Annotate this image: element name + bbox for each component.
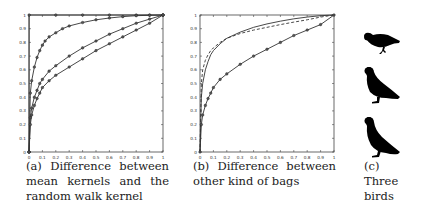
chart-b: 00.10.20.30.40.50.60.70.80.9100.10.20.30… [175,0,345,160]
chart-a-marker [36,56,39,59]
chart-a-marker [48,70,51,73]
caption-word: and [119,174,141,189]
chart-b-ytick-label: 0.9 [190,26,197,31]
chart-b-marker [209,92,212,95]
chart-b-ytick-label: 0.5 [190,81,197,86]
chart-a-ytick-label: 1 [23,13,26,18]
chart-a-marker [44,40,47,43]
caption-word: kernels [67,174,110,189]
chart-a-ytick-label: 0.9 [19,26,26,31]
chart-a-marker [68,25,71,28]
chart-a-marker [148,22,151,25]
chart-a-marker [81,47,84,50]
chart-b-frame [200,15,334,152]
chart-a-marker [68,55,71,58]
chart-a-marker [148,18,151,21]
caption-word: (a) [26,159,42,174]
chart-b-ytick-label: 0 [194,150,197,155]
chart-a-ytick-label: 0.1 [19,136,26,141]
chart-a-marker [55,14,58,17]
caption-a-line-3: random walk kernel [26,189,169,204]
chart-b-ytick-label: 0.8 [190,40,197,45]
chart-a-ytick-label: 0.8 [19,40,26,45]
chart-a-marker [148,14,151,17]
chart-a-marker [108,14,111,17]
chart-a-marker [108,42,111,45]
chart-a-ytick-label: 0 [23,150,26,155]
bird-silhouette-2 [365,67,401,104]
chart-a-marker [38,92,41,95]
chart-a-marker [95,18,98,21]
chart-a-marker [95,49,98,52]
chart-a-plot: 00.10.20.30.40.50.60.70.80.9100.10.20.30… [0,0,175,160]
chart-a-marker [30,114,33,117]
chart-a-marker [30,107,33,110]
birds-image [350,0,423,160]
chart-a-marker [108,33,111,36]
chart-b-marker [293,34,296,37]
bird-silhouette-1 [364,33,400,54]
chart-b-marker [200,123,203,126]
chart-a-marker [48,36,51,39]
chart-a-marker [36,89,39,92]
chart-a-ytick-label: 0.6 [19,67,26,72]
chart-a-marker [135,22,138,25]
caption-word: the [150,174,169,189]
chart-a-marker [29,123,32,126]
caption-word: between [286,159,336,174]
chart-b-series-curve-solid-upper [200,15,334,152]
chart-a-ytick-label: 0.3 [19,108,26,113]
chart-a-marker [48,79,51,82]
caption-a: (a)Differencebetween meankernelsandthe r… [26,159,169,204]
chart-a-marker [41,78,44,81]
chart-a-marker [38,82,41,85]
chart-a-marker [135,29,138,32]
caption-b-line-1: (b)Differencebetween [193,159,336,174]
chart-a-marker [38,49,41,52]
chart-a-marker [81,21,84,24]
caption-b: (b)Differencebetween other kind of bags [193,159,336,189]
chart-a-marker [33,104,36,107]
caption-c-line-1: (c) [364,159,414,174]
chart-b-marker [239,63,242,66]
chart-a-ytick-label: 0.7 [19,54,26,59]
chart-a-marker [28,151,31,154]
chart-b-plot: 00.10.20.30.40.50.60.70.80.9100.10.20.30… [175,0,345,160]
chart-a-marker [95,40,98,43]
chart-b-marker [333,14,336,17]
chart-b-ytick-label: 1 [194,13,197,18]
chart-a-marker [55,32,58,35]
caption-b-line-2: other kind of bags [193,174,336,189]
caption-word: mean [26,174,58,189]
chart-b-ytick-label: 0.6 [190,67,197,72]
caption-a-line-2: meankernelsandthe [26,174,169,189]
chart-a-marker [61,27,64,30]
chart-b-ytick-label: 0.4 [190,95,197,100]
caption-a-line-1: (a)Differencebetween [26,159,169,174]
chart-a-marker [108,17,111,20]
chart-b-ytick-label: 0.7 [190,54,197,59]
chart-a-marker [68,66,71,69]
chart-b-marker [212,86,215,89]
chart-b-marker [279,41,282,44]
chart-a-marker [122,36,125,39]
chart-b-marker [204,104,207,107]
caption-word: (b) [193,159,209,174]
chart-a-marker [81,58,84,61]
chart-a-marker [162,14,165,17]
chart-a-ytick-label: 0.2 [19,122,26,127]
chart-a-marker [55,74,58,77]
chart-b-marker [252,55,255,58]
chart-b-marker [207,97,210,100]
caption-c-line-2: Three [364,174,414,189]
chart-a-marker [122,27,125,30]
chart-a-ytick-label: 0.4 [19,95,26,100]
chart-a-marker [135,14,138,17]
chart-a-marker [28,14,31,17]
caption-word: between [119,159,169,174]
caption-c: (c) Three birds [364,159,414,204]
chart-b-series-curve-dashed [200,15,334,152]
chart-b-ytick-label: 0.3 [190,108,197,113]
chart-a-marker [33,96,36,99]
chart-b-marker [319,23,322,26]
